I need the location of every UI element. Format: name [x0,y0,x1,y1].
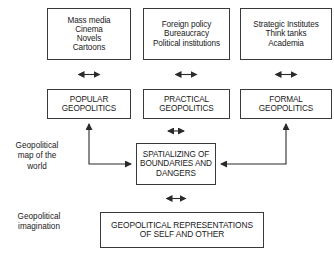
label-geopolitical-map-of-the-world: Geopolitical map of the world [4,141,70,172]
connector-popular-elbow [89,124,131,164]
label-line: imagination [4,222,74,232]
label-geopolitical-imagination: Geopolitical imagination [4,212,74,233]
node-line: Foreign policy [162,20,212,29]
node-line: Cartoons [73,43,105,52]
node-line: Bureaucracy [164,29,209,38]
node-line: DANGERS [156,169,196,178]
node-line: FORMAL [269,95,303,104]
label-line: map of the [4,151,70,161]
node-line: Strategic Institutes [253,20,318,29]
node-formal-sources: Strategic Institutes Think tanks Academi… [240,8,332,60]
node-line: Mass media [67,16,110,25]
label-line: Geopolitical [4,212,74,222]
geopolitics-diagram: Mass media Cinema Novels Cartoons Foreig… [0,0,334,259]
node-line: OF SELF AND OTHER [140,230,224,239]
node-line: Think tanks [266,29,307,38]
label-line: Geopolitical [4,141,70,151]
label-line: world [4,162,70,172]
node-line: GEOPOLITICS [259,104,313,113]
node-line: Novels [77,34,101,43]
node-line: GEOPOLITICS [159,104,213,113]
node-geopolitical-representations: GEOPOLITICAL REPRESENTATIONS OF SELF AND… [100,212,264,248]
node-popular-sources: Mass media Cinema Novels Cartoons [47,8,131,60]
node-line: POPULAR [70,95,108,104]
node-popular-geopolitics: POPULAR GEOPOLITICS [47,89,131,119]
node-line: BOUNDARIES AND [140,159,212,168]
node-spatializing-of-boundaries-and-dangers: SPATIALIZING OF BOUNDARIES AND DANGERS [136,143,216,185]
node-line: Academia [268,39,304,48]
node-line: SPATIALIZING OF [143,150,209,159]
node-line: PRACTICAL [164,95,209,104]
node-line: GEOPOLITICS [62,104,116,113]
node-line: Cinema [75,25,103,34]
node-line: Political institutions [153,39,220,48]
connector-formal-elbow [221,124,286,164]
node-practical-sources: Foreign policy Bureaucracy Political ins… [143,8,230,60]
node-formal-geopolitics: FORMAL GEOPOLITICS [240,89,332,119]
node-practical-geopolitics: PRACTICAL GEOPOLITICS [143,89,230,119]
